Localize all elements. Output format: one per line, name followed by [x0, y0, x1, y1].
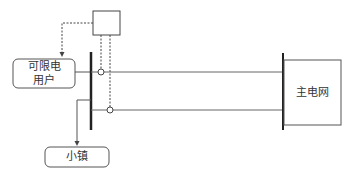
arrow-icon — [60, 52, 65, 57]
main-grid-label: 主电网 — [284, 86, 341, 100]
control-signal-line — [62, 23, 93, 54]
town-feeder-line — [77, 100, 91, 143]
limited-user-label-line1: 可限电 — [13, 60, 75, 74]
limited-user-label: 可限电 用户 — [13, 60, 75, 88]
controller-box — [93, 11, 120, 35]
arrow-icon — [75, 141, 80, 146]
sensor-2-icon — [107, 107, 113, 113]
limited-user-label-line2: 用户 — [13, 74, 75, 88]
sensor-1-icon — [98, 69, 104, 75]
town-label: 小镇 — [45, 150, 109, 164]
